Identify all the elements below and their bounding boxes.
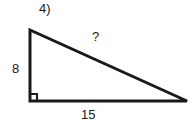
geometry-figure-canvas: 4) 8 15 ?	[0, 0, 192, 127]
triangle-shape	[30, 30, 187, 101]
hypotenuse-unknown-label: ?	[92, 30, 99, 43]
vertical-leg-length-label: 8	[12, 62, 19, 75]
problem-number-label: 4)	[39, 2, 51, 15]
horizontal-leg-length-label: 15	[81, 108, 95, 121]
right-triangle-drawing	[0, 0, 192, 127]
